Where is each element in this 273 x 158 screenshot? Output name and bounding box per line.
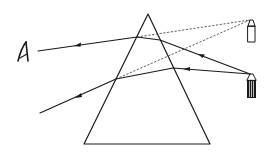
- arrow-lower-outside: [75, 93, 82, 98]
- candle-outline-icon: [248, 20, 255, 42]
- upper-apparent-ray: [137, 20, 250, 37]
- prism-refraction-diagram: Light rays refracted through a triangula…: [0, 0, 273, 158]
- lower-ray: [40, 68, 250, 113]
- prism: [84, 14, 210, 144]
- upper-ray: [38, 37, 250, 74]
- arrow-lower-inside: [183, 67, 190, 71]
- eye-icon: [18, 42, 28, 61]
- candle-filled-icon: [247, 74, 256, 98]
- lower-apparent-ray: [116, 20, 250, 79]
